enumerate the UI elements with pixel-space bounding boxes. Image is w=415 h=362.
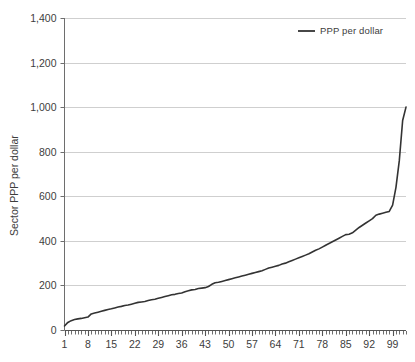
x-axis-tick-label: 64: [270, 338, 282, 350]
x-axis-tick-label: 8: [85, 338, 91, 350]
x-axis-tick-label: 99: [387, 338, 399, 350]
x-axis-tick-label: 15: [106, 338, 118, 350]
chart-container: 02004006008001,0001,2001,400 18152229364…: [0, 0, 415, 362]
y-axis-title: Sector PPP per dollar: [8, 135, 20, 236]
x-axis-tick-label: 22: [129, 338, 141, 350]
legend-label: PPP per dollar: [320, 25, 383, 36]
x-axis-tick-label: 78: [316, 338, 328, 350]
x-axis-tick-label: 71: [293, 338, 305, 350]
x-axis-tick-label: 1: [62, 338, 68, 350]
x-axis-tick-label: 29: [152, 338, 164, 350]
y-axis-tick-label: 800: [39, 146, 57, 158]
y-axis-tick-label: 400: [39, 235, 57, 247]
x-axis-tick-label: 57: [246, 338, 258, 350]
x-axis-tick-label: 92: [363, 338, 375, 350]
y-axis-tick-label: 1,200: [30, 57, 56, 69]
x-axis-tick-label: 50: [223, 338, 235, 350]
line-chart: 02004006008001,0001,2001,400 18152229364…: [0, 0, 415, 362]
x-axis-tick-label: 43: [199, 338, 211, 350]
x-axis-tick-label: 85: [340, 338, 352, 350]
y-axis-tick-label: 1,400: [30, 12, 56, 24]
chart-background: [0, 0, 415, 362]
x-axis-tick-labels: 1815222936435057647178859299: [62, 338, 399, 350]
x-axis-tick-label: 36: [176, 338, 188, 350]
y-axis-tick-label: 200: [39, 279, 57, 291]
y-axis-tick-label: 1,000: [30, 101, 56, 113]
y-axis-tick-label: 600: [39, 190, 57, 202]
y-axis-tick-label: 0: [51, 324, 57, 336]
